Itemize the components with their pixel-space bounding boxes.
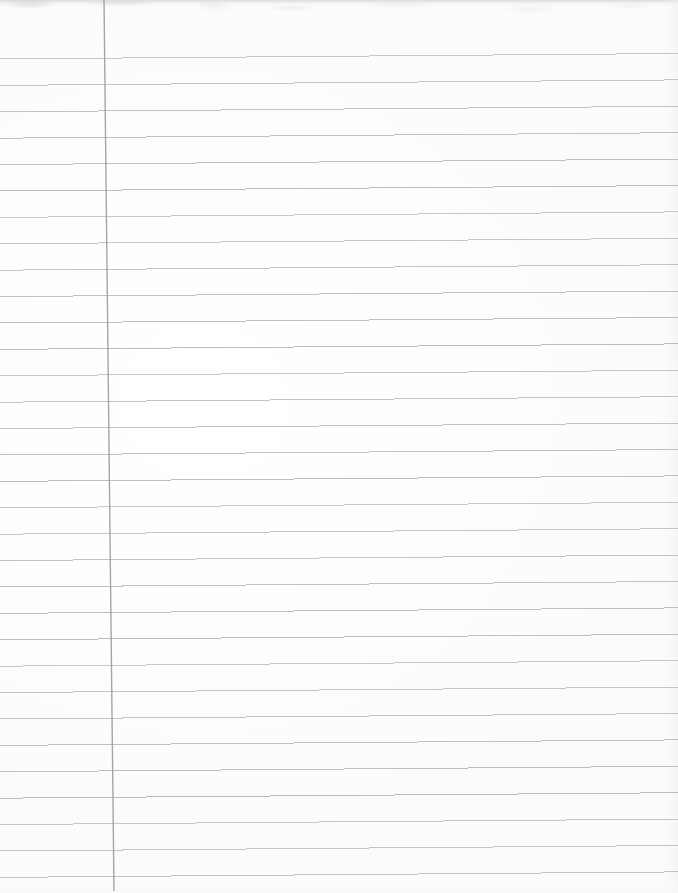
vertical-margin-line — [104, 0, 114, 891]
vertical-margin-rule-group — [104, 0, 114, 891]
writing-area[interactable] — [118, 0, 674, 893]
scanned-notebook-page — [0, 0, 678, 893]
